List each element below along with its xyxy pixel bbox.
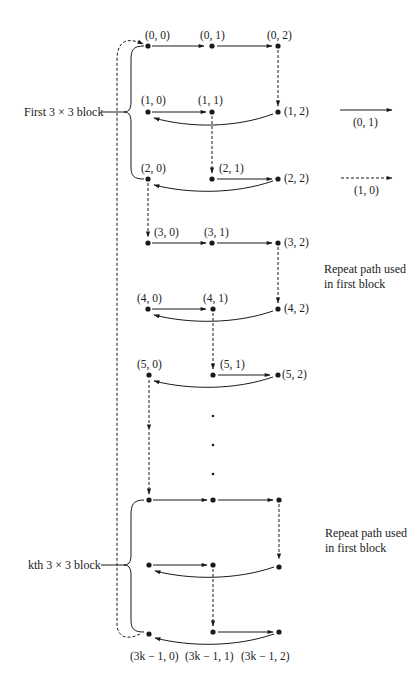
legend-dashed-label: (1, 0) [354,185,379,197]
node-label: (3k − 1, 0) [130,651,179,663]
first-block-label: First 3 × 3 block [24,105,103,120]
node-label: (3k − 1, 2) [241,651,290,663]
legend-solid-label: (0, 1) [353,117,378,129]
node-label: (5, 0) [137,359,162,371]
node-label: (2, 2) [284,173,309,185]
node-label: (4, 0) [137,293,162,305]
repeat-note: Repeat path used in first block [325,526,407,556]
kth-block-brace [124,500,144,632]
repeat-note: Repeat path used in first block [324,262,406,292]
first-block-brace [124,46,144,179]
node-label: (5, 1) [220,359,245,371]
node-label: (0, 1) [200,30,225,42]
node-label: (0, 0) [145,30,170,42]
node-label: (3, 2) [284,237,309,249]
node-label: (5, 2) [282,369,307,381]
node-label: (3, 1) [204,227,229,239]
node-label: (1, 1) [198,95,223,107]
node-label: (2, 0) [141,163,166,175]
node-label: (0, 2) [267,30,292,42]
kth-block-label: kth 3 × 3 block [28,558,101,573]
node-label: (1, 0) [141,95,166,107]
node-label: (4, 1) [203,293,228,305]
node-label: (3k − 1, 1) [185,651,234,663]
return-loop-dashed [117,41,143,638]
node-label: (3, 0) [154,227,179,239]
node-label: (2, 1) [219,163,244,175]
node-label: (1, 2) [284,106,309,118]
node-label: (4, 2) [284,303,309,315]
